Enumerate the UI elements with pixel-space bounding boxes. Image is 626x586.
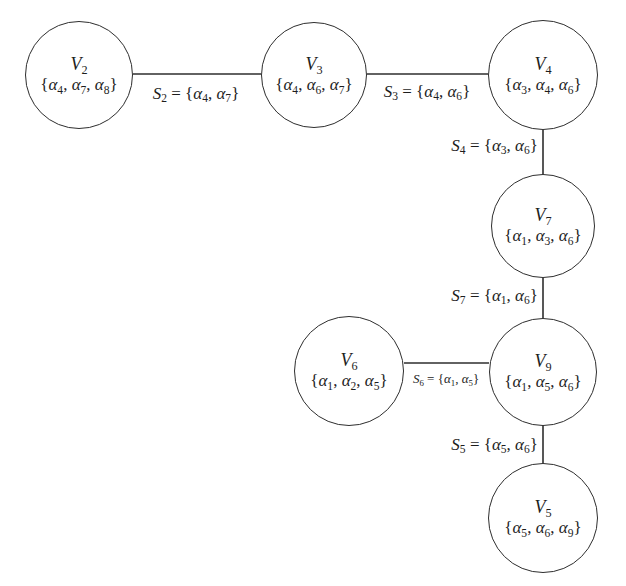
node-v3-set: {α4, α6, α7} bbox=[275, 75, 353, 95]
node-v9-set: {α1, α5, α6} bbox=[504, 372, 582, 392]
node-v4-title: V4 bbox=[534, 54, 551, 75]
edge-s2-label: S2 = {α4, α7} bbox=[153, 85, 240, 104]
node-v7-set: {α1, α3, α6} bbox=[504, 226, 582, 246]
edge-s6-label: S6 = {α1, α5} bbox=[413, 372, 479, 386]
node-v6-set: {α1, α2, α5} bbox=[310, 371, 388, 391]
edge-s5-label: S5 = {α5, α6} bbox=[451, 436, 538, 455]
node-v4: V4{α3, α4, α6} bbox=[488, 20, 598, 130]
node-v7-title: V7 bbox=[534, 205, 551, 226]
node-v2-set: {α4, α7, α8} bbox=[40, 75, 118, 95]
node-v5-set: {α5, α6, α9} bbox=[504, 518, 582, 538]
node-v9-title: V9 bbox=[534, 351, 551, 372]
graph-figure: S2 = {α4, α7}S3 = {α4, α6}S4 = {α3, α6}S… bbox=[0, 0, 626, 586]
node-v5: V5{α5, α6, α9} bbox=[488, 463, 598, 573]
node-v7: V7{α1, α3, α6} bbox=[491, 174, 595, 278]
node-v4-set: {α3, α4, α6} bbox=[504, 75, 582, 95]
node-v6: V6{α1, α2, α5} bbox=[294, 316, 404, 426]
node-v2-title: V2 bbox=[70, 54, 87, 75]
edge-s3-label: S3 = {α4, α6} bbox=[384, 83, 471, 102]
node-v9: V9{α1, α5, α6} bbox=[489, 318, 597, 426]
node-v6-title: V6 bbox=[340, 350, 357, 371]
edge-s4-label: S4 = {α3, α6} bbox=[451, 137, 538, 156]
node-v3-title: V3 bbox=[305, 54, 322, 75]
edge-s7-label: S7 = {α1, α6} bbox=[451, 287, 538, 306]
node-v3: V3{α4, α6, α7} bbox=[261, 22, 367, 128]
node-v5-title: V5 bbox=[534, 497, 551, 518]
node-v2: V2{α4, α7, α8} bbox=[25, 21, 133, 129]
